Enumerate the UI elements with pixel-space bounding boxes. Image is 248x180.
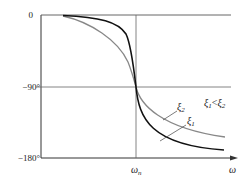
damping-relation-note: ξ1<ξ2 [204, 97, 226, 110]
y-tick-minus-180: −180° [18, 153, 41, 163]
wn-label: ωn [131, 164, 142, 177]
y-tick-0: 0 [29, 10, 34, 20]
xi1-leader-line [160, 125, 186, 141]
xi2-leader-line [163, 111, 177, 120]
y-tick-minus-90: −90° [22, 82, 40, 92]
chart-canvas: 0 −90° −180° ωn ω ξ2 ξ1 ξ1<ξ2 [0, 0, 248, 180]
phase-frequency-chart: 0 −90° −180° ωn ω ξ2 ξ1 ξ1<ξ2 [0, 0, 248, 180]
xi2-label: ξ2 [177, 101, 185, 114]
xi1-label: ξ1 [187, 115, 195, 128]
curve-xi2 [63, 16, 225, 137]
curve-xi1 [63, 16, 224, 151]
x-axis-arrow-icon [230, 156, 238, 161]
x-axis-label: ω [229, 164, 236, 175]
